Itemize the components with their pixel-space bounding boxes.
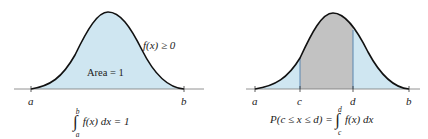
lower-limit: c [338,129,341,137]
upper-limit: b [76,108,80,116]
integrand: f(x) dx [345,113,373,125]
left-density-plot [14,12,204,92]
probability-expression: P(c ≤ x ≤ d) = [270,113,335,125]
right-tick-label-d: d [350,96,356,107]
right-density-plot [246,13,420,92]
right-tick-label-a: a [252,96,258,107]
right-tick-label-c: c [297,96,302,107]
area-label: Area = 1 [87,68,124,79]
right-probability-formula: P(c ≤ x ≤ d) = ∫dcf(x) dx [270,109,373,130]
left-tick-label-a: a [28,96,34,107]
left-integral-formula: ∫baf(x) dx = 1 [73,111,130,132]
left-tick-label-b: b [181,96,187,107]
right-tick-label-b: b [406,96,412,107]
integrand: f(x) dx = 1 [83,115,130,127]
upper-limit: d [338,106,342,114]
curve-nonnegative-label: f(x) ≥ 0 [143,40,175,51]
lower-limit: a [76,131,80,139]
